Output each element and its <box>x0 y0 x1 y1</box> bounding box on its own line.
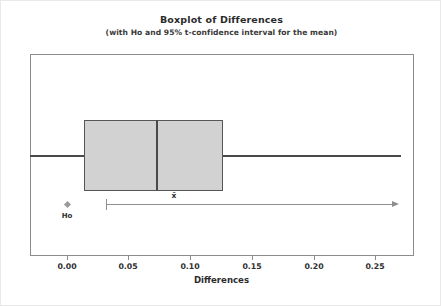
mean-marker: x̄ <box>167 192 181 200</box>
whisker-right <box>223 155 401 157</box>
whisker-left <box>30 155 85 157</box>
x-tick-label-2: 0.10 <box>170 262 210 271</box>
x-tick-4 <box>314 256 315 260</box>
box-iqr <box>84 120 223 191</box>
ho-label: Ho <box>57 212 77 220</box>
chart-subtitle: (with Ho and 95% t-confidence interval f… <box>1 27 441 38</box>
boxplot-figure: Boxplot of Differences (with Ho and 95% … <box>0 0 441 306</box>
x-tick-label-4: 0.20 <box>294 262 334 271</box>
x-axis-title: Differences <box>1 275 441 285</box>
ho-marker-icon <box>63 200 70 207</box>
plot-area: Ho x̄ <box>30 54 414 256</box>
x-tick-label-1: 0.05 <box>108 262 148 271</box>
confidence-interval-line <box>106 204 393 205</box>
x-tick-2 <box>190 256 191 260</box>
x-tick-1 <box>128 256 129 260</box>
confidence-interval-lower-cap <box>106 199 107 210</box>
x-tick-label-0: 0.00 <box>47 262 87 271</box>
x-tick-label-3: 0.15 <box>232 262 272 271</box>
x-tick-label-5: 0.25 <box>355 262 395 271</box>
confidence-interval-arrowhead-icon <box>392 201 399 207</box>
x-tick-5 <box>375 256 376 260</box>
median-line <box>156 120 158 191</box>
title-block: Boxplot of Differences (with Ho and 95% … <box>1 14 441 38</box>
x-tick-3 <box>252 256 253 260</box>
x-tick-0 <box>67 256 68 260</box>
page-title: Boxplot of Differences <box>1 14 441 26</box>
